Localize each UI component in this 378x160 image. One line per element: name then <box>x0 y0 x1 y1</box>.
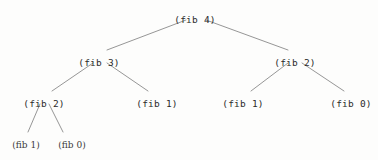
tree-node-n4: (fib 1) <box>136 98 177 109</box>
tree-node-n8: (fib 0) <box>58 140 85 151</box>
tree-node-n5: (fib 1) <box>222 98 263 109</box>
tree-node-n7: (fib 1) <box>12 140 39 151</box>
tree-node-n0: (fib 4) <box>174 14 215 25</box>
tree-edge <box>206 20 288 50</box>
tree-node-n6: (fib 0) <box>330 98 371 109</box>
tree-node-n1: (fib 3) <box>78 57 119 68</box>
tree-node-n2: (fib 2) <box>274 57 315 68</box>
recursion-tree-figure: (fib 4)(fib 3)(fib 2)(fib 2)(fib 1)(fib … <box>0 0 378 160</box>
tree-node-n3: (fib 2) <box>23 98 64 109</box>
